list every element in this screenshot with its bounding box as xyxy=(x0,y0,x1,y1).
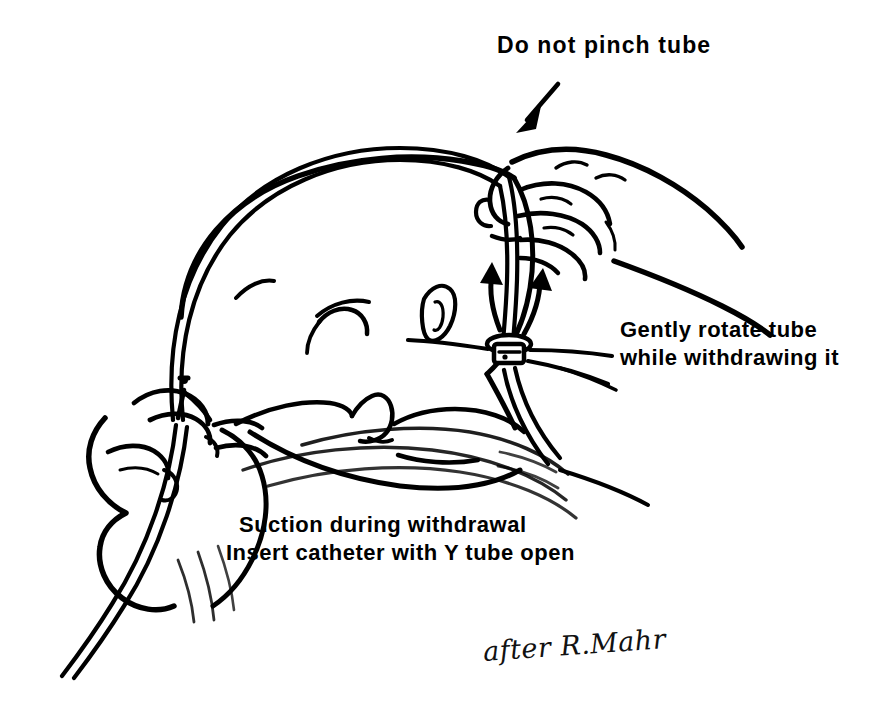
right-hand xyxy=(476,150,770,335)
patient-forehead-brow xyxy=(236,402,352,424)
left-hand-wrist-crease-a xyxy=(178,560,194,622)
right-hand-crease-c xyxy=(606,222,615,250)
pointer-arrow-head xyxy=(516,106,541,133)
right-hand-crease-b xyxy=(544,227,573,235)
annotation-gently-rotate-tube: Gently rotate tube while withdrawing it xyxy=(620,316,839,372)
annotation-suction-during-withdrawal: Suction during withdrawal Insert cathete… xyxy=(239,511,575,567)
trach-tie-right-tail xyxy=(560,368,616,390)
pointer-arrow-shaft xyxy=(527,84,558,120)
right-hand-knuckle-a xyxy=(556,162,587,168)
left-hand-wrist-crease-b xyxy=(198,552,214,620)
patient-ear-inner xyxy=(434,302,443,331)
patient-hairline xyxy=(236,281,274,298)
trach-tie-left xyxy=(408,340,488,349)
annotation-suction-line1: Suction during withdrawal xyxy=(239,511,575,539)
trach-tie-right-upper xyxy=(530,350,612,356)
catheter-tube-lower-outer xyxy=(515,368,560,458)
annotation-suction-line2: Insert catheter with Y tube open xyxy=(226,539,575,567)
annotation-gently-rotate-line1: Gently rotate tube xyxy=(620,316,839,344)
patient-body-edge xyxy=(560,470,648,505)
rotation-arrow-left-head xyxy=(480,262,503,285)
do-not-pinch-pointer-arrow xyxy=(516,84,558,133)
patient-eye-closed xyxy=(319,309,367,334)
annotation-gently-rotate-line2: while withdrawing it xyxy=(620,344,839,372)
patient-eye-crease xyxy=(307,321,320,353)
catheter-tube-descend-outer xyxy=(509,177,517,342)
catheter-tube-wall-outer xyxy=(171,148,509,420)
tracheostomy-site xyxy=(408,335,616,390)
left-hand-finger-right-b xyxy=(216,445,266,456)
y-connector-port-opening xyxy=(180,376,188,384)
right-hand-crease-a xyxy=(541,198,571,204)
left-hand-knuckle-line xyxy=(120,468,158,474)
catheter-tube-tail-outer xyxy=(62,425,176,676)
trach-collar-stud xyxy=(502,354,507,359)
annotation-do-not-pinch-tube: Do not pinch tube xyxy=(497,31,711,60)
left-hand-middle-finger xyxy=(108,446,168,478)
illustration-figure: Do not pinch tube Gently rotate tube whi… xyxy=(0,0,890,727)
patient-ear xyxy=(422,286,455,341)
right-hand-little-finger xyxy=(520,258,558,273)
catheter-tube-descend-inner xyxy=(500,186,507,342)
right-hand-knuckle-b xyxy=(596,175,625,180)
